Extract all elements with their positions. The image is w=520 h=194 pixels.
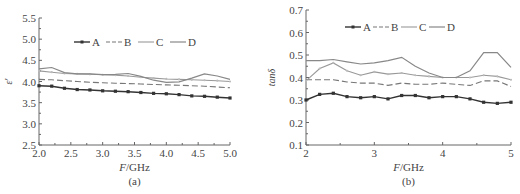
data-point-marker <box>216 80 218 82</box>
y-tick-label: 0.5 <box>289 49 303 61</box>
x-tick-label: 2 <box>303 147 309 159</box>
data-point-marker <box>37 84 40 87</box>
data-point-marker <box>510 79 512 81</box>
data-point-marker <box>469 76 471 78</box>
x-tick-label: 3.5 <box>128 147 142 159</box>
legend-label: D <box>188 36 196 48</box>
legend-label: C <box>156 36 163 48</box>
data-point-marker <box>177 93 180 96</box>
data-point-marker <box>346 70 348 72</box>
data-point-marker <box>191 79 193 81</box>
legend-label: C <box>419 21 426 33</box>
y-tick-label: 4.0 <box>22 76 36 88</box>
data-point-marker <box>468 97 471 100</box>
x-tick-label: 5.0 <box>223 147 237 159</box>
data-point-marker <box>152 92 155 95</box>
data-point-marker <box>483 74 485 76</box>
data-point-marker <box>400 94 403 97</box>
data-point-marker <box>427 96 430 99</box>
data-point-marker <box>228 96 231 99</box>
data-point-marker <box>203 95 206 98</box>
data-point-marker <box>509 101 512 104</box>
data-point-marker <box>428 75 430 77</box>
y-tick-label: 0.2 <box>289 117 303 129</box>
series-b <box>306 80 511 87</box>
series-c <box>305 62 512 82</box>
data-point-marker <box>165 92 168 95</box>
data-point-marker <box>373 95 376 98</box>
data-point-marker <box>496 75 498 77</box>
x-tick-label: 4 <box>440 147 446 159</box>
data-point-marker <box>216 96 219 99</box>
y-axis-label: tanδ <box>266 68 277 86</box>
legend-label: B <box>124 36 131 48</box>
y-tick-label: 0.6 <box>289 27 303 39</box>
legend-label: A <box>92 36 100 48</box>
data-point-marker <box>345 95 348 98</box>
y-tick-label: 0.4 <box>289 72 303 84</box>
data-point-marker <box>114 90 117 93</box>
legend-label: A <box>363 21 371 33</box>
data-point-marker <box>401 72 403 74</box>
x-tick-label: 5 <box>508 147 514 159</box>
x-tick-label: 3.0 <box>96 147 110 159</box>
y-axis-label: ε′ <box>3 78 14 85</box>
data-point-marker <box>101 89 104 92</box>
y-tick-label: 3.0 <box>22 118 36 130</box>
x-axis-label: F/GHz <box>392 161 424 173</box>
data-point-marker <box>63 87 66 90</box>
permittivity-chart: 2.53.03.54.04.55.05.52.02.53.03.54.04.55… <box>0 0 260 194</box>
data-point-marker <box>178 78 180 80</box>
y-tick-label: 0.3 <box>289 94 303 106</box>
series-b <box>39 79 230 87</box>
x-axis-label: F/GHz <box>118 161 150 173</box>
data-point-marker <box>386 97 389 100</box>
y-tick-label: 3.5 <box>22 97 36 109</box>
y-tick-label: 5.5 <box>22 12 36 24</box>
data-point-marker <box>127 75 129 77</box>
chart-panel-a: 2.53.03.54.04.55.05.52.02.53.03.54.04.55… <box>0 0 260 194</box>
data-point-marker <box>360 74 362 76</box>
data-point-marker <box>414 94 417 97</box>
x-tick-label: 3 <box>372 147 378 159</box>
data-point-marker <box>38 70 40 72</box>
data-point-marker <box>319 67 321 69</box>
data-point-marker <box>51 71 53 73</box>
data-point-marker <box>304 98 307 101</box>
data-point-marker <box>305 80 307 82</box>
legend-label: B <box>391 21 398 33</box>
data-point-marker <box>190 94 193 97</box>
data-point-marker <box>88 88 91 91</box>
legend-label: D <box>447 21 455 33</box>
data-point-marker <box>441 95 444 98</box>
data-point-marker <box>165 78 167 80</box>
x-tick-label: 2.5 <box>64 147 78 159</box>
data-point-marker <box>76 88 79 91</box>
data-point-marker <box>203 79 205 81</box>
data-point-marker <box>332 92 335 95</box>
y-tick-label: 0.1 <box>289 139 303 151</box>
data-point-marker <box>229 80 231 82</box>
data-point-marker <box>414 74 416 76</box>
chart-panel-b: 0.10.20.30.40.50.60.72345F/GHztanδ(b)ABC… <box>260 0 520 194</box>
y-tick-label: 4.5 <box>22 54 36 66</box>
y-tick-label: 5.0 <box>22 33 36 45</box>
x-tick-label: 4.0 <box>159 147 173 159</box>
data-point-marker <box>496 102 499 105</box>
data-point-marker <box>359 96 362 99</box>
data-point-marker <box>455 95 458 98</box>
data-point-marker <box>318 93 321 96</box>
legend: ABCD <box>74 36 196 48</box>
panel-label: (b) <box>402 175 415 188</box>
data-point-marker <box>153 77 155 79</box>
x-tick-label: 4.5 <box>191 147 205 159</box>
y-tick-label: 0.7 <box>289 4 303 16</box>
data-point-marker <box>50 85 53 88</box>
data-point-marker <box>387 73 389 75</box>
series-a <box>304 92 512 105</box>
data-point-marker <box>373 71 375 73</box>
data-point-marker <box>482 101 485 104</box>
x-tick-label: 2.0 <box>32 147 46 159</box>
data-point-marker <box>127 90 130 93</box>
data-point-marker <box>139 91 142 94</box>
